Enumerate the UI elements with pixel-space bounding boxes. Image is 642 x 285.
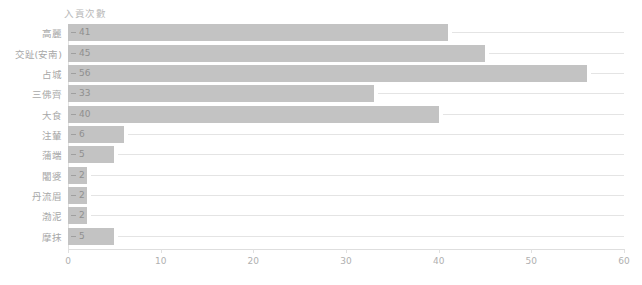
bar xyxy=(68,65,587,82)
bar-value-label: 5 xyxy=(79,149,85,160)
category-label: 大食 xyxy=(2,108,62,122)
bar-value-label: 2 xyxy=(79,170,85,181)
x-axis-tick-label: 30 xyxy=(340,256,351,266)
bar-row: 闍婆2 xyxy=(68,167,624,187)
leader-line xyxy=(118,154,624,155)
value-tick-mark xyxy=(71,32,76,33)
category-label: 交趾(安南) xyxy=(2,47,62,61)
category-label: 闍婆 xyxy=(2,169,62,183)
x-axis-tick xyxy=(624,249,625,253)
bar-row: 占城56 xyxy=(68,65,624,85)
value-tick-mark xyxy=(71,195,76,196)
bar-value-label: 2 xyxy=(79,190,85,201)
value-tick-mark xyxy=(71,114,76,115)
bar-value-label: 6 xyxy=(79,129,85,140)
category-label: 摩抹 xyxy=(2,230,62,244)
bar-row: 注輦6 xyxy=(68,126,624,146)
plot-area: 高麗41交趾(安南)45占城56三佛齊33大食40注輦6蒲端5闍婆2丹流眉2渤泥… xyxy=(68,24,624,248)
category-label: 高麗 xyxy=(2,26,62,40)
value-tick-mark xyxy=(71,93,76,94)
bar-chart: 入貢次數 高麗41交趾(安南)45占城56三佛齊33大食40注輦6蒲端5闍婆2丹… xyxy=(0,0,642,285)
bar-row: 渤泥2 xyxy=(68,207,624,227)
leader-line xyxy=(378,93,624,94)
leader-line xyxy=(443,114,624,115)
x-axis-tick-label: 40 xyxy=(433,256,444,266)
category-label: 注輦 xyxy=(2,128,62,142)
bar xyxy=(68,126,124,143)
value-tick-mark xyxy=(71,53,76,54)
bar xyxy=(68,85,374,102)
bar-row: 大食40 xyxy=(68,106,624,126)
x-axis-tick-label: 20 xyxy=(248,256,259,266)
leader-line xyxy=(591,73,624,74)
x-axis-tick xyxy=(531,249,532,253)
bar-value-label: 2 xyxy=(79,210,85,221)
x-axis-tick xyxy=(439,249,440,253)
leader-line xyxy=(91,195,624,196)
bar-value-label: 56 xyxy=(79,68,90,79)
value-tick-mark xyxy=(71,215,76,216)
leader-line xyxy=(118,236,624,237)
x-axis-tick-label: 0 xyxy=(65,256,71,266)
x-axis-tick-label: 60 xyxy=(618,256,629,266)
bar xyxy=(68,106,439,123)
leader-line xyxy=(452,32,624,33)
x-axis-tick xyxy=(68,249,69,253)
bar xyxy=(68,45,485,62)
bar-value-label: 40 xyxy=(79,109,90,120)
value-tick-mark xyxy=(71,134,76,135)
leader-line xyxy=(489,53,624,54)
bar-value-label: 5 xyxy=(79,231,85,242)
x-axis-tick-label: 10 xyxy=(155,256,166,266)
bar-row: 交趾(安南)45 xyxy=(68,45,624,65)
category-label: 蒲端 xyxy=(2,148,62,162)
x-axis-tick xyxy=(346,249,347,253)
leader-line xyxy=(91,175,624,176)
category-label: 丹流眉 xyxy=(2,189,62,203)
bar-value-label: 45 xyxy=(79,48,90,59)
leader-line xyxy=(128,134,624,135)
value-tick-mark xyxy=(71,175,76,176)
bar xyxy=(68,24,448,41)
bar-row: 蒲端5 xyxy=(68,146,624,166)
bar-row: 摩抹5 xyxy=(68,228,624,248)
value-tick-mark xyxy=(71,73,76,74)
category-label: 占城 xyxy=(2,67,62,81)
x-axis-tick-label: 50 xyxy=(526,256,537,266)
value-tick-mark xyxy=(71,154,76,155)
bar-value-label: 33 xyxy=(79,88,90,99)
bar-row: 高麗41 xyxy=(68,24,624,44)
category-label: 三佛齊 xyxy=(2,87,62,101)
chart-title: 入貢次數 xyxy=(64,6,106,20)
leader-line xyxy=(91,215,624,216)
x-axis-tick xyxy=(253,249,254,253)
category-label: 渤泥 xyxy=(2,209,62,223)
bar-value-label: 41 xyxy=(79,27,90,38)
bar-row: 三佛齊33 xyxy=(68,85,624,105)
value-tick-mark xyxy=(71,236,76,237)
bar-row: 丹流眉2 xyxy=(68,187,624,207)
x-axis-tick xyxy=(161,249,162,253)
